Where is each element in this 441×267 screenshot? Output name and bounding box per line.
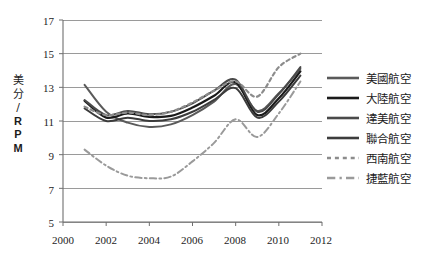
legend-item-label: 西南航空 [366, 150, 411, 166]
legend-swatch-icon [326, 91, 360, 105]
legend-item-label: 美國航空 [366, 70, 411, 86]
series-lines [85, 54, 301, 179]
legend-item-label: 達美航空 [366, 110, 411, 126]
series-line [85, 81, 301, 178]
legend-swatch-icon [326, 111, 360, 125]
legend-swatch-icon [326, 71, 360, 85]
legend-item[interactable]: 美國航空 [326, 68, 438, 88]
legend-item[interactable]: 捷藍航空 [326, 168, 438, 188]
line-chart: 美 分 / R P M 17 15 13 11 9 7 5 2000 2002 … [0, 0, 441, 267]
legend-item-label: 聯合航空 [366, 130, 411, 146]
gridlines [63, 20, 322, 222]
legend-item[interactable]: 西南航空 [326, 148, 438, 168]
legend-item-label: 捷藍航空 [366, 170, 411, 186]
legend: 美國航空 大陸航空 達美航空 聯合航空 西南航空 捷藍航空 [326, 68, 438, 188]
legend-swatch-icon [326, 171, 360, 185]
legend-item[interactable]: 達美航空 [326, 108, 438, 128]
series-line [85, 69, 301, 127]
legend-swatch-icon [326, 151, 360, 165]
axis-ticks [59, 20, 322, 226]
legend-item[interactable]: 大陸航空 [326, 88, 438, 108]
legend-item[interactable]: 聯合航空 [326, 128, 438, 148]
legend-swatch-icon [326, 131, 360, 145]
legend-item-label: 大陸航空 [366, 90, 411, 106]
